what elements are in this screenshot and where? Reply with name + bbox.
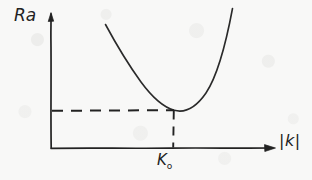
minimum-vertical-dashed-guide (173, 111, 174, 148)
y-axis-arrowhead-icon (48, 13, 54, 22)
x-tick-base: K (157, 151, 167, 169)
curve-path (106, 9, 233, 112)
vertical-dashed-line (173, 111, 174, 148)
horizontal-dashed-line (52, 110, 174, 111)
sketch-figure-page: Ra |k| Ko (0, 0, 312, 180)
marginal-stability-curve (106, 9, 233, 112)
minimum-horizontal-dashed-guide (52, 110, 174, 111)
y-axis (48, 13, 54, 148)
graph-sketch-canvas (0, 0, 312, 180)
x-axis-label: |k| (279, 133, 301, 149)
y-axis-label: Ra (14, 7, 36, 24)
x-axis-tick-label-k0: Ko (157, 153, 172, 171)
x-tick-subscript: o (167, 161, 173, 171)
x-axis-arrowhead-icon (265, 145, 276, 152)
